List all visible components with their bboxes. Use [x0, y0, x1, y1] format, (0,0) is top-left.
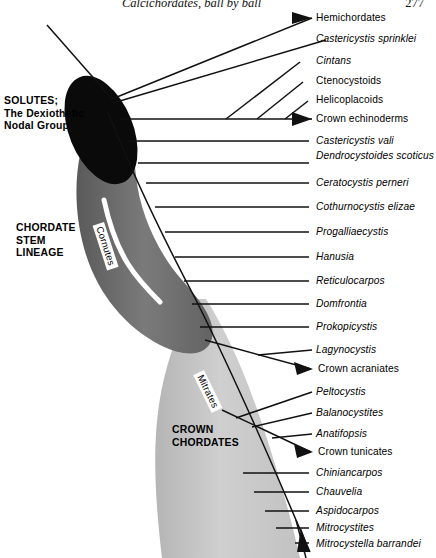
group-label-chordate-stem: CHORDATE STEM LINEAGE	[16, 222, 76, 260]
taxon-prokopicystis: Prokopicystis	[316, 321, 377, 333]
taxon-mitrocystella-barrandei: Mitrocystella barrandei	[316, 538, 421, 550]
taxon-cothurnocystis-elizae: Cothurnocystis elizae	[316, 201, 415, 213]
taxon-chiniancarpos: Chiniancarpos	[316, 467, 382, 479]
taxon-helicoplacoids: Helicoplacoids	[316, 94, 383, 106]
taxon-dendrocystoides-scoticus: Dendrocystoides scoticus	[316, 150, 436, 161]
taxon-reticulocarpos: Reticulocarpos	[316, 275, 385, 287]
branch-castericystis-sprinklei	[113, 40, 326, 103]
branch-balanocystites	[252, 413, 312, 427]
branch-lagynocystis	[258, 350, 312, 355]
arrowhead-crown-tunicates	[294, 444, 313, 458]
group-label-crown-chordates: CROWN CHORDATES	[172, 424, 239, 449]
branch-cintans	[226, 62, 300, 119]
taxon-castericystis-sprinklei: Castericystis sprinklei	[316, 33, 416, 45]
arrowhead-crown-acraniates	[294, 362, 313, 375]
taxon-crown-acraniates: Crown acraniates	[318, 363, 399, 375]
taxon-domfrontia: Domfrontia	[316, 298, 367, 310]
branch-hemichordates	[112, 18, 312, 99]
taxon-chauvelia: Chauvelia	[316, 486, 362, 498]
taxon-balanocystites: Balanocystites	[316, 407, 383, 419]
figure-page: Calcichordates, ball by ball 277	[0, 0, 436, 558]
group-label-solutes: SOLUTES; The Dexiothetic Nodal Group	[4, 95, 84, 133]
taxon-progalliaecystis: Progalliaecystis	[316, 226, 388, 238]
taxon-crown-tunicates: Crown tunicates	[318, 446, 393, 458]
taxon-lagynocystis: Lagynocystis	[316, 344, 376, 356]
arrowhead-crown-echinoderms	[292, 112, 312, 126]
taxon-ceratocystis-perneri: Ceratocystis perneri	[316, 177, 409, 189]
taxon-castericystis-vali: Castericystis vali	[316, 135, 394, 147]
taxon-crown-echinoderms: Crown echinoderms	[316, 113, 408, 125]
taxon-cintans: Cintans	[316, 55, 351, 67]
taxon-hanusia: Hanusia	[316, 251, 354, 263]
taxon-anatifopsis: Anatifopsis	[316, 428, 367, 440]
taxon-mitrocystites: Mitrocystites	[316, 522, 374, 534]
taxon-ctenocystoids: Ctenocystoids	[316, 75, 381, 87]
taxon-hemichordates: Hemichordates	[316, 12, 386, 24]
taxon-peltocystis: Peltocystis	[316, 386, 366, 398]
taxon-aspidocarpos: Aspidocarpos	[316, 505, 379, 517]
